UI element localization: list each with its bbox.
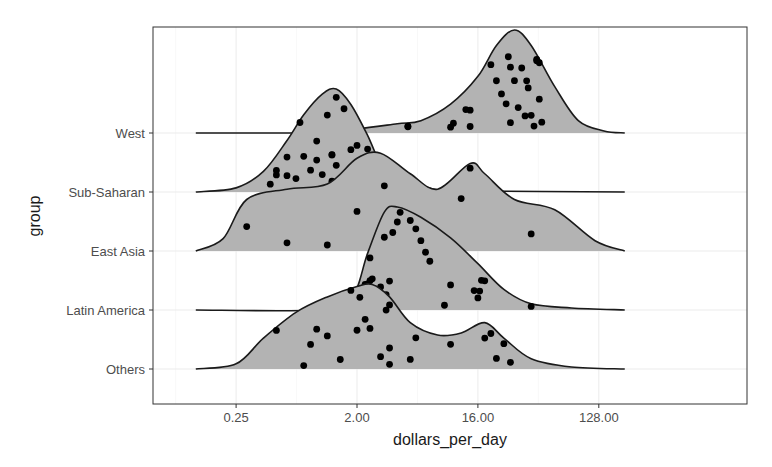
y-tick-label: Latin America (66, 303, 146, 318)
data-point (341, 105, 348, 112)
y-axis: WestSub-SaharanEast AsiaLatin AmericaOth… (66, 126, 153, 377)
data-point (528, 303, 535, 310)
data-point (324, 333, 331, 340)
x-tick-label: 2.00 (344, 410, 369, 425)
data-point (475, 294, 482, 301)
data-point (333, 94, 340, 101)
data-point (297, 119, 304, 126)
data-point (284, 154, 291, 161)
data-point (498, 90, 505, 97)
data-point (533, 56, 540, 63)
data-point (293, 175, 300, 182)
data-point (324, 112, 331, 119)
data-point (273, 167, 280, 174)
data-point (493, 355, 500, 362)
data-point (422, 249, 429, 256)
data-point (394, 219, 401, 226)
data-point (300, 153, 307, 160)
data-point (531, 123, 538, 130)
y-axis-title: group (26, 195, 43, 236)
data-point (364, 146, 371, 153)
data-point (389, 229, 396, 236)
data-point (284, 239, 291, 246)
data-point (528, 231, 535, 238)
data-point (313, 157, 320, 164)
data-point (337, 356, 344, 363)
data-point (467, 165, 474, 172)
data-point (511, 77, 518, 84)
data-point (528, 112, 535, 119)
data-point (450, 120, 457, 127)
data-point (441, 302, 448, 309)
data-point (458, 195, 465, 202)
y-tick-label: Others (106, 362, 146, 377)
y-tick-label: Sub-Saharan (68, 185, 145, 200)
data-point (412, 225, 419, 232)
data-point (505, 53, 512, 60)
data-point (522, 113, 529, 120)
data-point (462, 106, 469, 113)
data-point (525, 85, 532, 92)
data-point (487, 330, 494, 337)
data-point (447, 282, 454, 289)
x-axis: 0.252.0016.00128.00 (223, 404, 618, 425)
data-point (417, 237, 424, 244)
data-point (467, 123, 474, 130)
data-point (307, 341, 314, 348)
data-point (523, 77, 530, 84)
data-point (518, 65, 525, 72)
data-point (515, 104, 522, 111)
data-point (426, 258, 433, 265)
data-point (367, 255, 374, 262)
data-point (243, 223, 250, 230)
data-point (356, 294, 363, 301)
data-point (313, 138, 320, 145)
data-point (397, 209, 404, 216)
y-tick-label: East Asia (91, 244, 146, 259)
x-axis-title: dollars_per_day (393, 431, 507, 449)
data-point (407, 356, 414, 363)
data-point (377, 353, 384, 360)
data-point (324, 242, 331, 249)
data-point (500, 340, 507, 347)
data-point (381, 182, 388, 189)
data-point (300, 362, 307, 369)
data-point (354, 327, 361, 334)
ridgeline-chart: 0.252.0016.00128.00 WestSub-SaharanEast … (0, 0, 772, 467)
data-point (487, 61, 494, 68)
data-point (386, 302, 393, 309)
data-point (347, 146, 354, 153)
data-point (407, 217, 414, 224)
data-point (507, 119, 514, 126)
data-point (507, 359, 514, 366)
data-point (481, 335, 488, 342)
data-point (329, 151, 336, 158)
data-point (507, 64, 514, 71)
data-point (273, 327, 280, 334)
data-point (476, 288, 483, 295)
data-point (386, 278, 393, 285)
data-point (354, 208, 361, 215)
data-point (412, 334, 419, 341)
data-point (447, 341, 454, 348)
data-point (381, 234, 388, 241)
x-tick-label: 128.00 (579, 410, 619, 425)
x-tick-label: 16.00 (462, 410, 495, 425)
data-point (347, 287, 354, 294)
data-point (367, 325, 374, 332)
data-point (307, 167, 314, 174)
data-point (267, 181, 274, 188)
data-point (369, 275, 376, 282)
data-point (481, 277, 488, 284)
x-tick-label: 0.25 (223, 410, 248, 425)
data-point (313, 326, 320, 333)
data-point (362, 316, 369, 323)
data-point (538, 119, 545, 126)
data-point (354, 142, 361, 149)
data-point (333, 162, 340, 169)
data-point (386, 361, 393, 368)
y-tick-label: West (116, 126, 146, 141)
data-point (284, 172, 291, 179)
data-point (386, 345, 393, 352)
data-point (405, 123, 412, 130)
